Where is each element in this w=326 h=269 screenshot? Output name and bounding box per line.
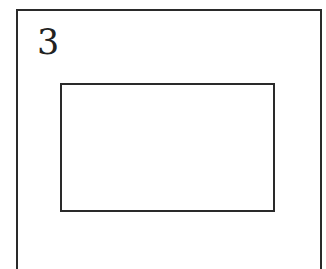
panel-number: 3 [37,22,59,62]
inner-rectangle [60,83,275,212]
